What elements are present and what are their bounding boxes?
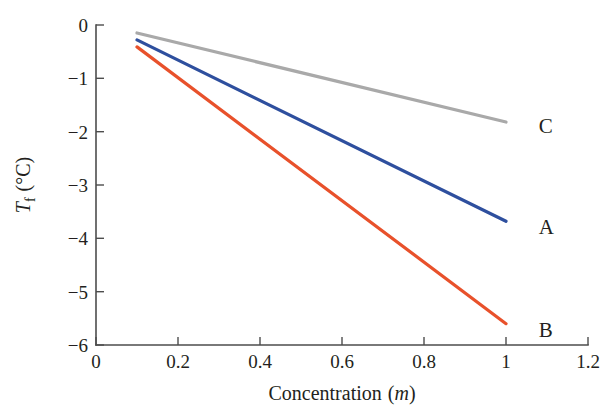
y-tick-label: −1 [68,68,88,89]
freezing-point-depression-chart: 0 −1 −2 −3 −4 −5 −6 0 0.2 0.4 0.6 0.8 1 … [0,0,605,415]
x-tick-label: 0.2 [166,351,190,372]
x-tick-label: 0.6 [330,351,354,372]
y-tick-label: −5 [68,282,88,303]
series-label-b: B [539,318,553,342]
y-tick-label: −6 [68,335,88,356]
series-label-c: C [539,114,553,138]
x-tick-label: 0.4 [248,351,272,372]
y-tick-label: 0 [79,15,89,36]
chart-figure: 0 −1 −2 −3 −4 −5 −6 0 0.2 0.4 0.6 0.8 1 … [0,0,605,415]
x-tick-label: 0.8 [412,351,436,372]
y-tick-label: −2 [68,122,88,143]
y-axis-title-subscript: f [23,197,38,202]
x-tick-label: 1.2 [576,351,600,372]
svg-text:Concentration(m): Concentration(m) [268,382,415,405]
series-label-a: A [539,215,555,239]
x-axis-title-text: Concentration [268,382,381,404]
y-axis-title-unit: (°C) [12,157,35,192]
y-tick-label: −3 [68,175,88,196]
x-axis-title: Concentration(m) [268,382,415,405]
x-axis-title-unit: m [394,382,408,404]
x-tick-label: 1 [501,351,511,372]
x-tick-label: 0 [91,351,101,372]
y-tick-label: −4 [68,228,89,249]
